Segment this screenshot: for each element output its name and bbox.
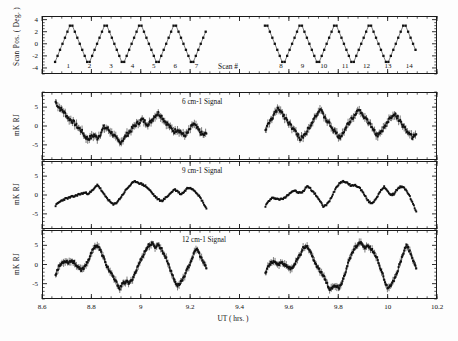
data-layer xyxy=(0,0,458,341)
figure-root: Scan Pos. ( Deg. ) Scan # mK RJ 6 cm-1 S… xyxy=(0,0,458,341)
